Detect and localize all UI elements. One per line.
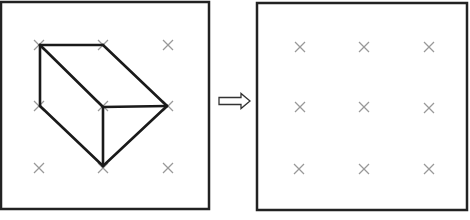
grid-point-marker xyxy=(295,102,305,112)
grid-point-marker xyxy=(424,164,434,174)
grid-point-marker xyxy=(163,163,173,173)
grid-point-marker xyxy=(359,42,369,52)
diagram-canvas xyxy=(0,0,470,220)
grid-point-marker xyxy=(424,103,434,113)
right-panel-frame xyxy=(257,3,467,210)
grid-point-marker xyxy=(34,163,44,173)
prism-edge xyxy=(103,106,167,107)
right-arrow-icon xyxy=(219,94,250,109)
grid-point-marker xyxy=(359,102,369,112)
prism-edge xyxy=(40,106,103,166)
prism-edge xyxy=(103,45,167,106)
left-panel xyxy=(1,2,209,209)
grid-point-marker xyxy=(294,164,304,174)
grid-point-marker xyxy=(424,42,434,52)
right-panel xyxy=(257,3,467,210)
arrow-shape xyxy=(219,94,250,109)
prism-edge xyxy=(40,45,103,107)
grid-point-marker xyxy=(163,40,173,50)
prism-edge xyxy=(103,106,167,166)
left-panel-frame xyxy=(1,2,209,209)
grid-point-marker xyxy=(359,164,369,174)
grid-point-marker xyxy=(295,42,305,52)
